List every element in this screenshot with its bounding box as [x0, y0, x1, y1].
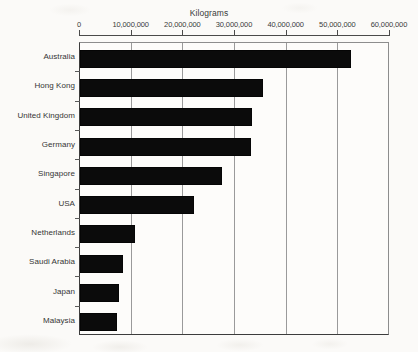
category-label: Hong Kong [35, 81, 75, 90]
category-label: USA [58, 199, 75, 208]
x-axis-tick-label: 50,000,000 [319, 20, 356, 29]
x-axis-tick [182, 30, 183, 36]
bar [80, 196, 194, 214]
y-axis-tick [75, 101, 80, 102]
bar [80, 313, 117, 331]
category-label: Malaysia [43, 316, 75, 325]
y-axis-category-labels: AustraliaHong KongUnited KingdomGermanyS… [0, 0, 75, 352]
x-axis-tick-label: 40,000,000 [267, 20, 304, 29]
x-axis-tick-label: 10,000,000 [112, 20, 149, 29]
y-axis-tick [75, 306, 80, 307]
bar [80, 108, 252, 126]
bar-chart-figure: Kilograms 010,000,00020,000,00030,000,00… [0, 0, 418, 352]
bar [80, 225, 135, 243]
y-axis-tick [75, 71, 80, 72]
y-axis-tick [75, 218, 80, 219]
x-axis-tick [389, 30, 390, 36]
category-label: Netherlands [31, 228, 75, 237]
bar [80, 50, 351, 68]
y-axis-tick [75, 247, 80, 248]
x-axis-tick-label: 30,000,000 [216, 20, 253, 29]
x-axis-tick [79, 30, 80, 36]
gridline [337, 43, 338, 334]
category-label: Japan [53, 287, 75, 296]
x-axis-tick [131, 30, 132, 36]
category-label: Germany [42, 140, 75, 149]
category-label: Australia [43, 52, 75, 61]
y-axis-tick [75, 130, 80, 131]
y-axis-tick [75, 276, 80, 277]
category-label: Saudi Arabia [29, 257, 75, 266]
x-axis-tick-label: 20,000,000 [164, 20, 201, 29]
y-axis-tick [75, 189, 80, 190]
x-axis-tick-label: 0 [77, 20, 81, 29]
category-label: Singapore [38, 169, 75, 178]
bar [80, 79, 263, 97]
bar [80, 138, 251, 156]
bar [80, 167, 222, 185]
bar [80, 284, 119, 302]
x-axis-tick-label: 60,000,000 [371, 20, 408, 29]
x-axis-tick [337, 30, 338, 36]
gridline [286, 43, 287, 334]
bar [80, 255, 123, 273]
x-axis-tick [234, 30, 235, 36]
x-axis-tick [286, 30, 287, 36]
plot-area [79, 42, 389, 335]
y-axis-tick [75, 159, 80, 160]
category-label: United Kingdom [17, 111, 75, 120]
